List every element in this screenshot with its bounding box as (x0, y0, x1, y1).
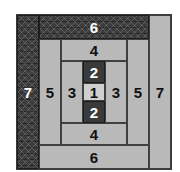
cell-center: 1 (83, 83, 105, 101)
cell-label-left-mid: 5 (46, 85, 54, 100)
cell-right-mid: 5 (127, 39, 149, 145)
cell-left-outer: 7 (17, 15, 39, 169)
cell-label-right-inner: 3 (112, 85, 120, 100)
cell-label-right-mid: 5 (134, 85, 142, 100)
cell-top-outer: 6 (39, 15, 149, 39)
cell-label-bottom-mid: 4 (90, 127, 98, 142)
cell-label-top-mid: 4 (90, 43, 98, 58)
cell-label-left-outer: 7 (24, 85, 32, 100)
cell-label-bottom-inner: 2 (90, 105, 98, 120)
cell-left-inner: 3 (61, 61, 83, 123)
cell-label-top-inner: 2 (90, 65, 98, 80)
cell-top-mid: 4 (61, 39, 127, 61)
cell-label-right-outer: 7 (156, 85, 164, 100)
cell-left-mid: 5 (39, 39, 61, 145)
nested-strip-dissection-figure: 7676545432321 (16, 14, 172, 170)
cell-label-top-outer: 6 (90, 20, 98, 35)
cell-right-inner: 3 (105, 61, 127, 123)
cell-top-inner: 2 (83, 61, 105, 83)
cell-bottom-mid: 4 (61, 123, 127, 145)
cell-bottom-outer: 6 (39, 145, 149, 169)
cell-label-center: 1 (90, 85, 98, 100)
cell-label-bottom-outer: 6 (90, 150, 98, 165)
cell-bottom-inner: 2 (83, 101, 105, 123)
cell-label-left-inner: 3 (68, 85, 76, 100)
cell-right-outer: 7 (149, 15, 171, 169)
